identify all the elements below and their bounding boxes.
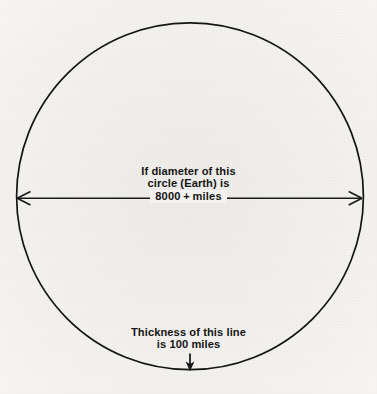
- diameter-value: 8000: [155, 190, 180, 202]
- thickness-label-line-1: Thickness of this line: [0, 326, 377, 338]
- diameter-label-line-2: circle (Earth) is: [0, 177, 377, 189]
- thickness-label: Thickness of this line is 100 miles: [0, 326, 377, 351]
- thickness-label-line-2: is 100 miles: [0, 338, 377, 350]
- earth-scale-diagram: If diameter of this circle (Earth) is 80…: [0, 0, 377, 394]
- diameter-unit: miles: [192, 190, 221, 202]
- plus-sign: +: [181, 190, 193, 202]
- diameter-value-group: 8000+miles: [150, 190, 227, 202]
- diameter-label-line-1: If diameter of this: [0, 165, 377, 177]
- diameter-label: If diameter of this circle (Earth) is 80…: [0, 165, 377, 203]
